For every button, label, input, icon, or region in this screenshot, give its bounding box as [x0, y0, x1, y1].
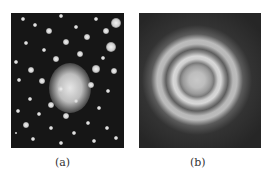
diffraction-spot: [42, 48, 46, 52]
diffraction-spot: [63, 113, 69, 119]
diffraction-spot: [24, 41, 28, 45]
diffraction-spot: [37, 112, 41, 116]
diffraction-spot: [15, 132, 17, 134]
diffraction-spot: [94, 17, 98, 21]
diffraction-spot: [28, 97, 32, 101]
diffraction-spot: [88, 82, 94, 88]
diffraction-spot: [14, 60, 18, 64]
diffraction-spot: [59, 14, 63, 18]
diffraction-spot: [17, 78, 21, 82]
diffraction-spot: [106, 89, 110, 93]
diffraction-spot: [86, 121, 90, 125]
diffraction-spot: [92, 65, 100, 73]
diffraction-spot: [16, 109, 20, 113]
diffraction-spot: [23, 122, 29, 128]
diffraction-spot: [101, 56, 105, 60]
diffraction-spot: [46, 28, 52, 34]
panel-label-a: (a): [55, 156, 70, 169]
diffraction-spot: [72, 131, 76, 135]
diffraction-spot: [106, 42, 116, 52]
central-glow: [49, 63, 91, 113]
diffraction-spot: [33, 23, 37, 27]
diffraction-spot: [114, 136, 118, 140]
diffraction-spot: [21, 17, 25, 21]
diffraction-spot: [84, 34, 90, 40]
diffraction-spot: [77, 51, 83, 57]
diffraction-spot: [63, 39, 69, 45]
diffraction-spot: [48, 102, 54, 108]
diffraction-spot: [49, 126, 53, 130]
diffraction-spot: [28, 67, 34, 73]
diffraction-spot: [74, 25, 78, 29]
diffraction-spot: [92, 139, 96, 143]
ring-diffraction-image: [139, 13, 261, 148]
panel-label-b: (b): [190, 156, 206, 169]
diffraction-spot: [111, 68, 117, 74]
diffraction-spot: [111, 18, 121, 28]
diffraction-spot: [31, 137, 35, 141]
diffraction-spot: [74, 99, 78, 103]
diffraction-spot: [53, 56, 59, 62]
diffraction-spot: [103, 28, 109, 34]
diffraction-spot: [59, 141, 63, 145]
diffraction-spot: [97, 106, 101, 110]
diffraction-spot: [105, 126, 109, 130]
spot-diffraction-image: [11, 13, 124, 148]
diffraction-spot: [58, 86, 64, 92]
diffraction-spot: [39, 78, 45, 84]
